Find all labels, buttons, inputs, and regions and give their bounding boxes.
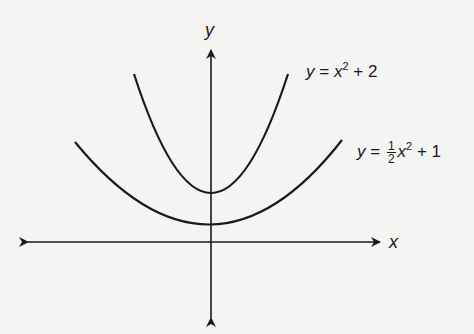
y-axis-label: y — [205, 20, 214, 41]
label-exp: 2 — [342, 60, 348, 72]
fraction-denominator: 2 — [388, 153, 395, 165]
label-x: x — [398, 142, 407, 161]
label-y: y — [357, 142, 366, 161]
label-exp: 2 — [406, 140, 412, 152]
label-y: y — [306, 62, 315, 81]
label-rest: + 1 — [417, 142, 441, 161]
label-rest: + 2 — [353, 62, 377, 81]
label-eq: = — [319, 62, 329, 81]
legend-label-curve-1: y = x2 + 2 — [306, 60, 377, 82]
label-eq: = — [370, 142, 380, 161]
parabola-graph: y x y = x2 + 2 y = 1 2 x2 + 1 — [0, 0, 474, 334]
x-axis-label: x — [389, 232, 398, 253]
curve-half-x-squared-plus-1 — [75, 140, 342, 225]
legend-label-curve-2: y = 1 2 x2 + 1 — [357, 140, 441, 165]
fraction-one-half: 1 2 — [387, 140, 396, 165]
graph-canvas — [0, 0, 474, 334]
